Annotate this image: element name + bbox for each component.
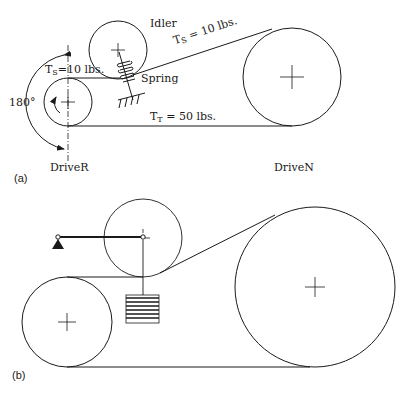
figure-b bbox=[22, 199, 395, 367]
weight-stack bbox=[126, 295, 159, 323]
slack-tension-left-label: TS=10 lbs. bbox=[45, 63, 104, 77]
tension-value: = 50 lbs. bbox=[163, 110, 216, 123]
idler-label: Idler bbox=[150, 17, 177, 30]
pivot-support bbox=[52, 239, 64, 249]
tension-value: =10 lbs. bbox=[58, 63, 104, 76]
wrap-angle-label: 180° bbox=[9, 96, 36, 109]
panel-label-a: (a) bbox=[14, 172, 27, 184]
spring bbox=[117, 52, 135, 100]
belt-drive-figure: Idler Spring TS=10 lbs. TS = 10 lbs. TT … bbox=[0, 0, 410, 395]
driven-label: DriveN bbox=[274, 161, 314, 174]
diagram-drawing bbox=[0, 0, 410, 395]
lever-pivot bbox=[56, 235, 60, 239]
spring-label: Spring bbox=[141, 72, 178, 85]
panel-label-b: (b) bbox=[12, 369, 25, 381]
driver-label: DriveR bbox=[50, 161, 89, 174]
tight-tension-label: TT = 50 lbs. bbox=[150, 110, 216, 124]
slack-belt-b-right bbox=[160, 215, 275, 273]
rotation-arrow bbox=[54, 97, 60, 113]
